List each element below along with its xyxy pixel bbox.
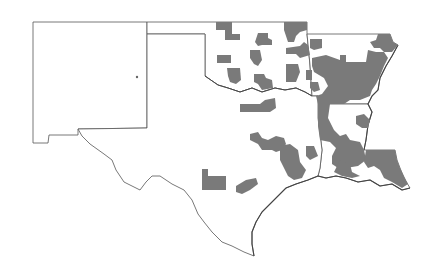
state-new-mexico	[33, 22, 147, 143]
county-cluster-ar-nw	[310, 39, 322, 50]
county-cluster-ok-se2	[306, 70, 312, 80]
map-container: South Central United States county map	[0, 0, 427, 273]
county-cluster-ok-w	[217, 55, 231, 63]
map-canvas	[0, 0, 427, 273]
location-dot	[136, 76, 138, 78]
